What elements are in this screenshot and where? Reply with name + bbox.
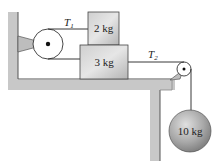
hanging-mass: 10 kg <box>169 110 211 152</box>
block-2kg-label: 2 kg <box>94 22 114 34</box>
block-3kg-label: 3 kg <box>94 56 114 68</box>
right-pulley <box>170 62 191 80</box>
block-3kg: 3 kg <box>80 45 128 79</box>
left-wall <box>8 12 18 88</box>
tension-t1-label: T1 <box>64 16 74 30</box>
hanging-mass-label: 10 kg <box>178 125 203 137</box>
block-2kg: 2 kg <box>88 12 119 45</box>
tension-t2-label: T2 <box>148 48 158 62</box>
physics-diagram: 2 kg 3 kg 10 kg T1 T2 <box>0 0 222 161</box>
table-leg <box>150 80 160 161</box>
table-top <box>8 80 175 90</box>
left-pulley <box>18 29 63 59</box>
